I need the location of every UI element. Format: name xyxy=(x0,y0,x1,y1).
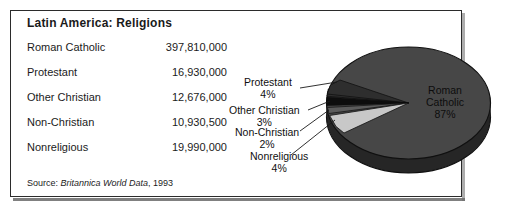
row-value: 19,990,000 xyxy=(172,141,227,153)
table-row: Protestant 16,930,000 xyxy=(27,66,227,91)
religion-data-table: Roman Catholic 397,810,000 Protestant 16… xyxy=(27,41,227,166)
callout-label: Other Christian xyxy=(229,104,300,116)
callout-label: Protestant xyxy=(244,76,292,88)
callout-percent: 2% xyxy=(235,138,299,150)
source-note: Source: Britannica World Data, 1993 xyxy=(27,178,173,188)
frame-shadow-bottom xyxy=(13,198,465,201)
table-row: Other Christian 12,676,000 xyxy=(27,91,227,116)
source-prefix: Source: xyxy=(27,178,61,188)
table-row: Roman Catholic 397,810,000 xyxy=(27,41,227,66)
callout-non-christian: Non-Christian 2% xyxy=(235,126,299,150)
callout-protestant: Protestant 4% xyxy=(244,76,292,100)
row-value: 16,930,000 xyxy=(172,66,227,78)
page-title: Latin America: Religions xyxy=(27,16,172,30)
religions-infographic-panel: Latin America: Religions Roman Catholic … xyxy=(0,0,507,212)
row-label: Roman Catholic xyxy=(27,41,105,53)
row-value: 12,676,000 xyxy=(172,91,227,103)
source-year: , 1993 xyxy=(148,178,173,188)
row-label: Protestant xyxy=(27,66,77,78)
callout-label: Non-Christian xyxy=(235,126,299,138)
rc-line-2: Catholic xyxy=(411,96,479,108)
pie-slice-label-roman-catholic: Roman Catholic 87% xyxy=(411,84,479,120)
row-label: Non-Christian xyxy=(27,116,94,128)
callout-nonreligious: Nonreligious 4% xyxy=(250,150,308,174)
row-label: Nonreligious xyxy=(27,141,88,153)
rc-line-3: 87% xyxy=(411,108,479,120)
rc-line-1: Roman xyxy=(411,84,479,96)
callout-label: Nonreligious xyxy=(250,150,308,162)
callout-other-christian: Other Christian 3% xyxy=(229,104,300,128)
row-label: Other Christian xyxy=(27,91,101,103)
table-row: Nonreligious 19,990,000 xyxy=(27,141,227,166)
table-row: Non-Christian 10,930,500 xyxy=(27,116,227,141)
row-value: 397,810,000 xyxy=(166,41,227,53)
row-value: 10,930,500 xyxy=(172,116,227,128)
source-publication: Britannica World Data xyxy=(61,178,149,188)
callout-percent: 4% xyxy=(244,88,292,100)
callout-percent: 4% xyxy=(250,162,308,174)
